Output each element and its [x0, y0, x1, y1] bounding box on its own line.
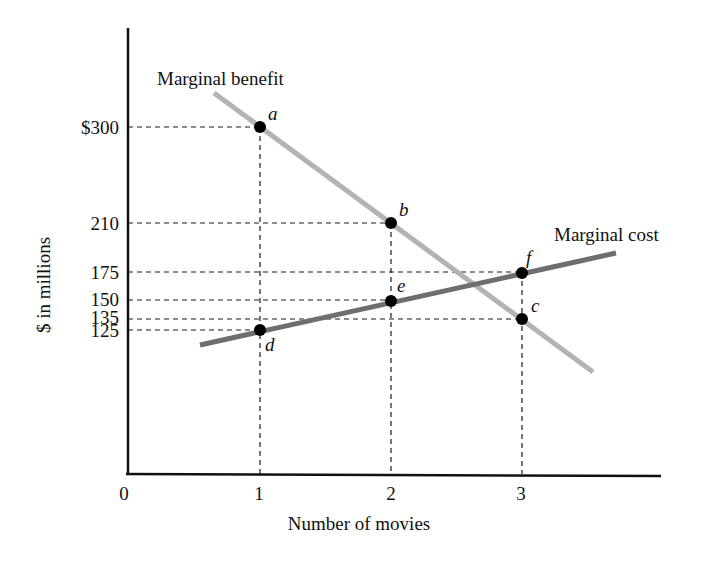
y-axis-title: $ in millions	[33, 237, 54, 333]
point-label-f: f	[526, 247, 534, 268]
y-tick-labels: $300 210 175 150 135 125	[81, 117, 119, 341]
x-tick-labels: 0 1 2 3	[119, 483, 526, 504]
x-tick-2: 2	[386, 483, 396, 504]
point-label-b: b	[399, 199, 409, 220]
point-c	[516, 313, 528, 325]
x-tick-3: 3	[516, 483, 526, 504]
point-label-d: d	[265, 334, 275, 355]
y-tick-300: $300	[81, 117, 119, 138]
x-axis-title: Number of movies	[288, 513, 430, 534]
marginal-benefit-label: Marginal benefit	[157, 68, 285, 89]
point-label-a: a	[268, 103, 278, 124]
point-a	[254, 121, 266, 133]
x-tick-1: 1	[254, 483, 264, 504]
point-label-c: c	[531, 295, 540, 316]
point-e	[385, 295, 397, 307]
x-tick-0: 0	[119, 483, 129, 504]
y-tick-175: 175	[91, 262, 120, 283]
point-f	[516, 267, 528, 279]
point-b	[385, 217, 397, 229]
guide-lines	[128, 127, 522, 474]
y-tick-210: 210	[91, 213, 120, 234]
chart-canvas: a b c d e f Marginal benefit Marginal co…	[0, 0, 719, 562]
x-axis	[126, 474, 661, 476]
marginal-cost-label: Marginal cost	[554, 224, 659, 245]
point-label-e: e	[397, 275, 405, 296]
y-tick-125: 125	[91, 320, 120, 341]
